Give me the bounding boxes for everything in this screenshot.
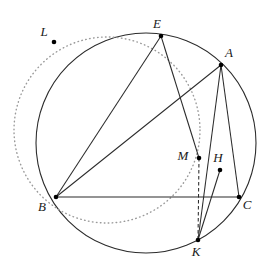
point-C bbox=[237, 195, 242, 200]
point-A bbox=[219, 63, 224, 68]
point-E bbox=[159, 34, 164, 39]
point-label-K: K bbox=[191, 244, 202, 259]
point-L bbox=[52, 40, 57, 45]
points-layer bbox=[52, 34, 242, 243]
segments-layer bbox=[56, 36, 239, 240]
segment-A-B bbox=[56, 65, 221, 197]
geometry-figure: LEABCMHK bbox=[0, 0, 270, 269]
point-label-E: E bbox=[152, 16, 161, 31]
segment-E-B bbox=[56, 36, 161, 197]
segment-E-M bbox=[161, 36, 199, 158]
point-label-H: H bbox=[212, 150, 223, 165]
segment-A-C bbox=[221, 65, 239, 197]
point-B bbox=[54, 195, 59, 200]
point-label-M: M bbox=[177, 148, 190, 163]
point-M bbox=[197, 156, 202, 161]
point-label-L: L bbox=[39, 24, 47, 39]
point-label-C: C bbox=[243, 197, 252, 212]
segment-H-K bbox=[198, 170, 220, 240]
geometry-canvas: LEABCMHK bbox=[0, 0, 270, 269]
segment-M-K bbox=[198, 158, 199, 240]
point-H bbox=[218, 168, 223, 173]
point-label-A: A bbox=[224, 45, 233, 60]
point-K bbox=[196, 238, 201, 243]
circle-dotted-circle bbox=[14, 37, 200, 223]
point-label-B: B bbox=[38, 199, 46, 214]
